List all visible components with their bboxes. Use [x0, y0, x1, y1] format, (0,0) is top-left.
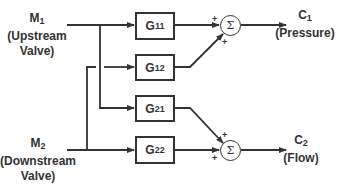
block-g21: G21	[135, 95, 175, 122]
sum1-plus-bottom: +	[222, 38, 227, 47]
sum1-plus-top: +	[212, 15, 217, 24]
output-c1-label: C1 (Pressure)	[272, 8, 338, 41]
sigma-icon: Σ	[227, 19, 235, 32]
block-g11: G11	[135, 12, 175, 40]
block-g22: G22	[135, 136, 175, 164]
input-m2-label: M2 (Downstream Valve)	[0, 136, 78, 184]
output-c2-label: C2 (Flow)	[276, 133, 326, 166]
summing-junction-1: Σ	[220, 15, 241, 36]
sum2-plus-top: +	[222, 131, 227, 140]
summing-junction-2: Σ	[220, 140, 241, 161]
input-m1-label: M1 (Upstream Valve)	[2, 11, 72, 59]
block-g12: G12	[135, 54, 175, 81]
sigma-icon: Σ	[227, 144, 235, 157]
sum2-plus-bottom: +	[212, 154, 217, 163]
